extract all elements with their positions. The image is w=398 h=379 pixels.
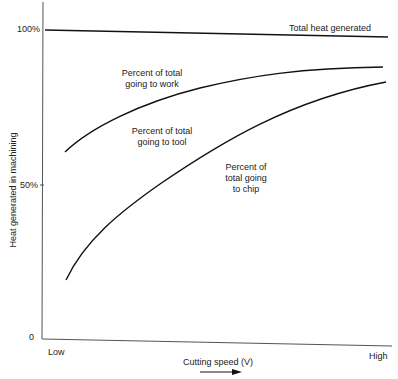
y-tick-0-label: 0 [29,332,34,343]
chip-annotation-line1: Percent of [216,162,276,173]
work-annotation-line1: Percent of total [112,68,192,79]
y-tick-100-label: 100% [17,24,40,35]
x-tick-low-label: Low [48,347,65,358]
y-axis-label: Heat generated in machining [8,115,18,265]
chart-plot [0,0,398,379]
work-annotation-line2: going to work [112,79,192,90]
tool-annotation-line1: Percent of total [122,126,202,137]
y-axis [42,2,43,339]
x-axis [42,339,392,346]
chip-annotation: Percent of total going to chip [216,162,276,195]
chip-annotation-line3: to chip [216,184,276,195]
x-axis-label: Cutting speed (V) [183,357,253,368]
x-arrow-head-icon [232,369,242,375]
tool-annotation: Percent of total going to tool [122,126,202,148]
y-tick-50-label: 50% [20,180,38,191]
total-heat-annotation: Total heat generated [289,23,371,34]
tool-annotation-line2: going to tool [122,137,202,148]
x-tick-high-label: High [369,351,388,362]
work-annotation: Percent of total going to work [112,68,192,90]
chip-annotation-line2: total going [216,173,276,184]
